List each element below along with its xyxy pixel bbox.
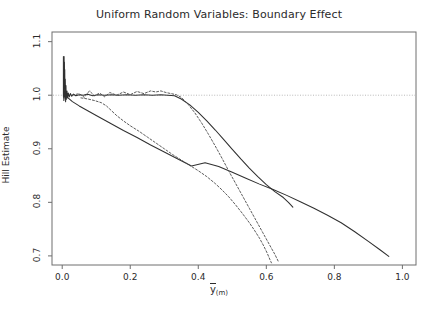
x-axis-tick-label: 0.4 [191, 272, 205, 282]
plot-canvas [0, 0, 438, 309]
y-axis-tick-label: 0.7 [32, 246, 42, 264]
y-axis-tick-label: 0.9 [32, 139, 42, 157]
x-axis-title: y(m) [0, 284, 438, 297]
x-axis-subscript: (m) [216, 289, 228, 297]
data-series-group [63, 57, 388, 263]
x-axis-symbol: y [210, 284, 216, 295]
axes-group [48, 32, 416, 269]
upper-dashed-curve [72, 91, 278, 261]
x-axis-tick-label: 1.0 [395, 272, 409, 282]
upper-solid-curve [64, 57, 293, 208]
lower-solid-line [66, 96, 389, 256]
plot-frame [52, 32, 416, 265]
x-axis-tick-label: 0.0 [55, 272, 69, 282]
x-axis-tick-label: 0.2 [123, 272, 137, 282]
x-axis-tick-label: 0.8 [327, 272, 341, 282]
y-axis-tick-label: 1.1 [32, 32, 42, 50]
x-axis-tick-label: 0.6 [259, 272, 273, 282]
y-axis-tick-label: 0.8 [32, 192, 42, 210]
chart-container: Uniform Random Variables: Boundary Effec… [0, 0, 438, 309]
y-axis-tick-label: 1.0 [32, 85, 42, 103]
